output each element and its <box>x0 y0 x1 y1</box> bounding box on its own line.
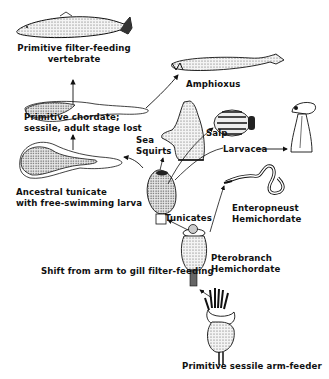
label-shift-note: Shift from arm to gill filter-feeding <box>41 266 214 277</box>
label-line: Primitive chordate; <box>24 112 142 123</box>
label-salp: Salp <box>206 128 228 139</box>
larvacea-icon <box>291 102 316 152</box>
arrow-to-enteropneust <box>210 186 224 232</box>
label-larvacea: Larvacea <box>223 144 267 155</box>
label-filter-vertebrate: Primitive filter-feeding vertebrate <box>16 43 132 65</box>
label-line: Ancestral tunicate <box>16 187 142 198</box>
ancestral-tunicate-icon <box>20 142 122 178</box>
enteropneust-icon <box>224 166 283 193</box>
filter-feeding-vertebrate-icon <box>17 12 132 38</box>
label-tunicates: Tunicates <box>165 213 212 224</box>
label-line: with free-swimming larva <box>16 198 142 209</box>
label-line: Sea <box>136 135 172 146</box>
label-line: sessile, adult stage lost <box>24 123 142 134</box>
label-enteropneust: Enteropneust Hemichordate <box>232 203 301 225</box>
arm-feeder-icon <box>205 288 235 365</box>
label-line: vertebrate <box>16 54 132 65</box>
label-line: Enteropneust <box>232 203 301 214</box>
arrow-to-ancestral <box>124 157 143 168</box>
label-line: Pterobranch <box>211 253 280 264</box>
amphioxus-icon <box>172 54 284 71</box>
label-sea-squirts: Sea Squirts <box>136 135 172 157</box>
label-amphioxus: Amphioxus <box>186 79 240 90</box>
label-arm-feeder: Primitive sessile arm-feeder <box>182 361 322 372</box>
label-line: Squirts <box>136 146 172 157</box>
label-line: Hemichordate <box>232 214 301 225</box>
arrow-to-sea-squirts <box>160 158 163 170</box>
label-line: Hemichordate <box>211 264 280 275</box>
label-line: Primitive filter-feeding <box>16 43 132 54</box>
label-pterobranch: Pterobranch Hemichordate <box>211 253 280 275</box>
label-ancestral-tunicate: Ancestral tunicate with free-swimming la… <box>16 187 142 209</box>
arrow-to-amphioxus <box>146 75 178 108</box>
evolution-diagram: Primitive filter-feeding vertebrate Prim… <box>0 0 329 379</box>
label-primitive-chordate: Primitive chordate; sessile, adult stage… <box>24 112 142 134</box>
